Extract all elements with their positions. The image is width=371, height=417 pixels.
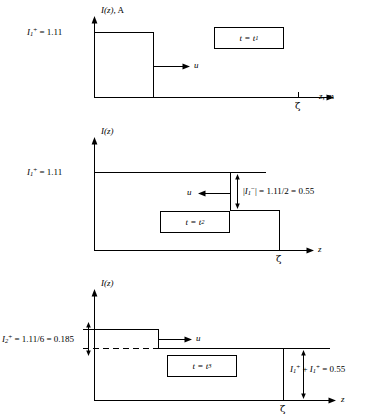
panel1-x-axis-label: z, m (319, 92, 334, 101)
panel1-y-axis-label: I(z), A (101, 6, 124, 15)
panel2-x-axis-arrowhead (307, 248, 315, 254)
panel3-y-axis-label: I(z) (101, 279, 114, 288)
panel2-flow-label: u (187, 188, 192, 197)
panel1-waveform (95, 33, 154, 98)
panel3-x-axis-arrowhead (329, 398, 337, 404)
panel3-x-tick-label: ζ (280, 404, 285, 414)
panel3-y-axis-arrowhead (92, 289, 98, 297)
panel3-left-dim-arrowhead-down (86, 351, 91, 357)
panel3-right-dim-arrowhead-up (301, 350, 306, 356)
panel2-x-tick-label: ζ (276, 254, 281, 264)
panel3-time-box: t = t3 (167, 355, 237, 377)
panel3-sum-label: I1+ + I1+ = 0.55 (290, 364, 345, 375)
panel1-level-label: I1+ = 1.11 (27, 27, 62, 38)
panel2-y-axis-arrowhead (92, 137, 98, 145)
panel1-y-axis-arrowhead (92, 16, 98, 24)
panel2-flow-arrowhead (198, 191, 206, 197)
panel3-x-axis-label: z (341, 395, 345, 404)
panel1-x-tick-label: ζ (295, 101, 300, 111)
panel2-dim-arrowhead-down (235, 204, 240, 210)
panel2-delta-label: |I1−| = 1.11/2 = 0.55 (243, 186, 314, 197)
figure-container: I(z), A I1+ = 1.11 u z, m ζ t = t1 I(z) … (0, 0, 371, 417)
panel1-time-box: t = t1 (214, 27, 284, 49)
panel1-flow-arrowhead (183, 64, 191, 70)
panel3-left-dim-arrowhead-up (86, 322, 91, 328)
panel3-level-label: I2+ = 1.11/6 = 0.185 (2, 334, 74, 345)
panel2-time-box: t = t2 (160, 211, 230, 233)
panel2-x-axis-label: z (318, 245, 322, 254)
panel3-right-dim-arrowhead-down (301, 394, 306, 400)
panel3-flow-arrowhead (185, 337, 193, 343)
panel1-flow-label: u (194, 61, 199, 70)
panel3-flow-label: u (196, 334, 201, 343)
panel2-level-label: I1+ = 1.11 (27, 167, 62, 178)
panel2-dim-arrowhead-up (235, 174, 240, 180)
panel2-y-axis-label: I(z) (101, 127, 114, 136)
